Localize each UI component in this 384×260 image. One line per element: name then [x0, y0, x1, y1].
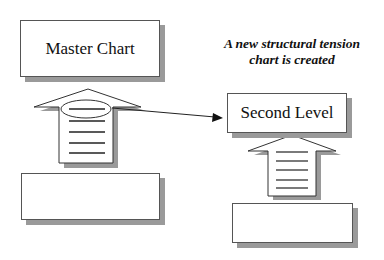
second-up-arrow-icon — [248, 135, 341, 200]
master-up-arrow-icon — [34, 89, 146, 168]
second-level-label: Second Level — [241, 103, 334, 123]
second-level-box: Second Level — [227, 93, 347, 133]
master-chart-box: Master Chart — [20, 20, 160, 77]
diagram-caption: A new structural tension chart is create… — [200, 36, 384, 68]
master-chart-label: Master Chart — [45, 39, 134, 59]
second-bottom-box — [232, 203, 353, 243]
caption-line-1: A new structural tension — [200, 36, 384, 52]
master-bottom-box — [21, 173, 160, 220]
caption-line-2: chart is created — [200, 52, 384, 68]
